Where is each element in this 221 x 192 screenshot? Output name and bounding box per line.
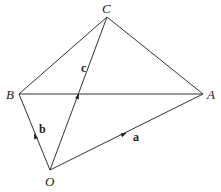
diagram-canvas: C B A O c b a — [0, 0, 221, 192]
segment-oa — [50, 94, 203, 170]
vector-label-a: a — [133, 130, 139, 144]
vector-label-b: b — [39, 122, 46, 136]
segment-bc — [19, 17, 107, 94]
vector-diagram: C B A O c b a — [0, 0, 221, 192]
point-label-b: B — [6, 87, 14, 102]
point-label-o: O — [45, 174, 55, 189]
point-label-c: C — [102, 1, 111, 16]
segment-ca — [107, 17, 203, 94]
point-label-a: A — [206, 87, 215, 102]
vector-label-c: c — [81, 61, 87, 75]
